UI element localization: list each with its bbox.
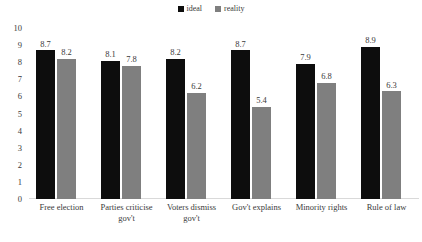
y-axis-tick-10: 10 — [14, 24, 23, 33]
bar-rect-ideal — [296, 64, 315, 199]
bar-reality: 5.4 — [252, 107, 271, 199]
bar-ideal: 8.7 — [36, 50, 55, 199]
bar-rect-reality — [252, 107, 271, 199]
y-axis-tick-6: 6 — [18, 92, 22, 101]
bar-rect-ideal — [361, 47, 380, 199]
bar-group: 8.78.2 — [29, 28, 94, 199]
bar-value-label: 8.2 — [170, 48, 181, 57]
legend-label-reality: reality — [224, 5, 244, 13]
x-axis-label: Free election — [29, 202, 94, 213]
x-axis-label: Gov't explains — [224, 202, 289, 213]
y-axis-tick-1: 1 — [18, 178, 22, 187]
bar-rect-reality — [57, 59, 76, 199]
y-axis-tick-8: 8 — [18, 58, 22, 67]
bar-group: 8.17.8 — [94, 28, 159, 199]
bar-ideal: 8.1 — [101, 61, 120, 200]
bar-value-label: 5.4 — [256, 96, 267, 105]
legend-item-ideal: ideal — [178, 5, 203, 13]
y-axis-tick-0: 0 — [18, 195, 22, 204]
x-axis-label: Minority rights — [289, 202, 354, 213]
chart-legend: ideal reality — [0, 3, 422, 15]
bar-rect-ideal — [36, 50, 55, 199]
y-axis: 109876543210 — [0, 22, 26, 205]
bar-value-label: 8.7 — [40, 40, 51, 49]
bar-rect-reality — [122, 66, 141, 199]
bar-rect-reality — [187, 93, 206, 199]
bar-value-label: 6.3 — [386, 81, 397, 90]
bar-reality: 6.3 — [382, 91, 401, 199]
bar-value-label: 6.8 — [321, 72, 332, 81]
bar-value-label: 6.2 — [191, 82, 202, 91]
bar-value-label: 7.9 — [300, 53, 311, 62]
legend-item-reality: reality — [215, 5, 244, 13]
x-axis-label: Rule of law — [354, 202, 419, 213]
bar-reality: 7.8 — [122, 66, 141, 199]
y-axis-tick-4: 4 — [18, 126, 22, 135]
bar-rect-reality — [382, 91, 401, 199]
y-axis-tick-9: 9 — [18, 41, 22, 50]
bar-rect-ideal — [231, 50, 250, 199]
legend-swatch-reality-icon — [215, 6, 221, 12]
bar-group: 8.26.2 — [159, 28, 224, 199]
bar-reality: 8.2 — [57, 59, 76, 199]
bar-rect-reality — [317, 83, 336, 199]
bar-group: 8.75.4 — [224, 28, 289, 199]
bar-value-label: 8.2 — [61, 48, 72, 57]
bar-rect-ideal — [166, 59, 185, 199]
bar-value-label: 8.7 — [235, 40, 246, 49]
bar-ideal: 8.7 — [231, 50, 250, 199]
bar-group: 8.96.3 — [354, 28, 419, 199]
x-axis-label: Parties criticise gov't — [94, 202, 159, 224]
y-axis-tick-7: 7 — [18, 75, 22, 84]
bar-ideal: 7.9 — [296, 64, 315, 199]
bar-ideal: 8.9 — [361, 47, 380, 199]
bar-reality: 6.8 — [317, 83, 336, 199]
bar-rect-ideal — [101, 61, 120, 200]
bar-chart: ideal reality 109876543210 8.78.28.17.88… — [0, 0, 422, 242]
bar-value-label: 7.8 — [126, 55, 137, 64]
plot-area: 8.78.28.17.88.26.28.75.47.96.88.96.3 — [29, 28, 419, 199]
bar-reality: 6.2 — [187, 93, 206, 199]
bar-group: 7.96.8 — [289, 28, 354, 199]
legend-swatch-ideal-icon — [178, 6, 184, 12]
legend-label-ideal: ideal — [187, 5, 203, 13]
y-axis-tick-2: 2 — [18, 161, 22, 170]
bar-value-label: 8.1 — [105, 50, 116, 59]
y-axis-tick-5: 5 — [18, 109, 22, 118]
bar-value-label: 8.9 — [365, 36, 376, 45]
x-axis-label: Voters dismiss gov't — [159, 202, 224, 224]
x-axis: Free electionParties criticise gov'tVote… — [29, 202, 419, 240]
bar-ideal: 8.2 — [166, 59, 185, 199]
y-axis-tick-3: 3 — [18, 143, 22, 152]
